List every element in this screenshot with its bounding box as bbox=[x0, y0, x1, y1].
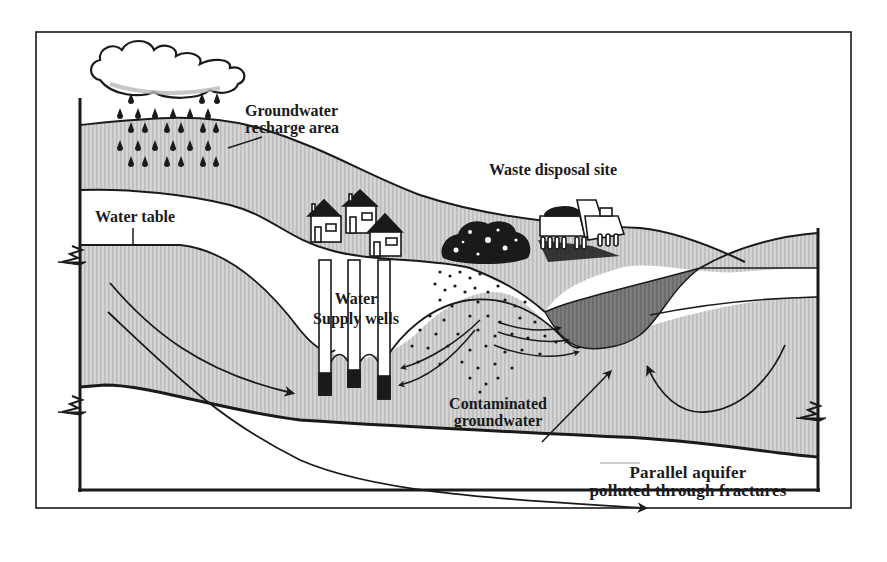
contaminated-label-line1: Contaminated bbox=[438, 396, 558, 413]
water-table-label: Water table bbox=[95, 209, 175, 226]
parallel-aquifer-label: Parallel aquifer polluted through fractu… bbox=[573, 464, 803, 500]
supply-wells-label: Water Supply wells bbox=[297, 291, 415, 328]
waste-disposal-site-label: Waste disposal site bbox=[489, 162, 617, 179]
recharge-label-line1: Groundwater bbox=[245, 103, 339, 120]
contaminated-label-line2: groundwater bbox=[438, 413, 558, 430]
water-supply-wells bbox=[319, 260, 390, 399]
wells-label-line2: Supply wells bbox=[297, 311, 415, 328]
wells-label-line1: Water bbox=[297, 291, 415, 308]
recharge-label-line2: recharge area bbox=[245, 120, 339, 137]
parallel-label-line1: Parallel aquifer bbox=[573, 464, 803, 482]
contaminated-groundwater-label: Contaminated groundwater bbox=[438, 396, 558, 430]
rain-cloud-icon bbox=[91, 41, 244, 98]
parallel-label-line2: polluted through fractures bbox=[573, 482, 803, 500]
recharge-area-label: Groundwater recharge area bbox=[245, 103, 339, 137]
